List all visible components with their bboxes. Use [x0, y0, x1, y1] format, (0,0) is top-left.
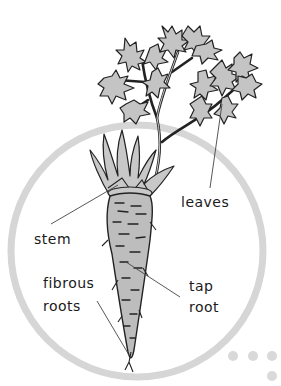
carrot-diagram: [0, 0, 281, 386]
label-tap-root-line1: tap: [189, 278, 213, 294]
label-fibrous-roots-line1: fibrous: [43, 275, 94, 291]
decorative-dots: [228, 351, 277, 381]
label-leaves: leaves: [181, 194, 229, 210]
label-stem: stem: [34, 231, 71, 247]
leaves: [98, 26, 262, 126]
tap-root: [102, 193, 156, 372]
label-tap-root-line2: root: [189, 299, 219, 315]
label-fibrous-roots-line2: roots: [43, 298, 81, 314]
crown: [90, 130, 174, 199]
